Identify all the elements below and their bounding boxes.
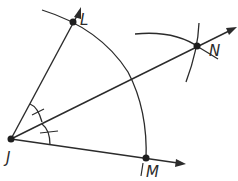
point-j: [8, 136, 15, 143]
angle-bisector-diagram: J L N M: [0, 0, 238, 181]
label-j: J: [3, 149, 10, 167]
angle-arc-lower: [42, 124, 50, 145]
label-n: N: [209, 42, 220, 60]
congruence-tick-upper: [32, 109, 44, 115]
point-n: [194, 43, 201, 50]
point-l: [70, 19, 77, 26]
arrowhead-n: [226, 27, 237, 35]
label-l: L: [80, 11, 88, 29]
ray-jm: [11, 139, 178, 163]
point-m: [143, 155, 150, 162]
arrowhead-m: [175, 159, 186, 167]
construction-arc-n-2: [186, 23, 199, 82]
congruence-tick-lower: [40, 131, 58, 133]
ray-jl: [11, 14, 78, 139]
construction-arc-n-1: [135, 33, 218, 59]
construction-arc-large: [42, 10, 146, 160]
tick-m: [141, 163, 143, 176]
label-m: M: [146, 163, 159, 181]
